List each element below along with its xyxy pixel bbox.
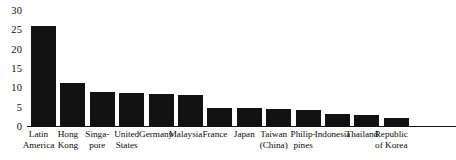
bar	[296, 110, 321, 127]
y-axis-tick-label: 20	[11, 45, 22, 55]
bar	[119, 93, 144, 127]
x-axis-category-labels: Latin AmericaHong KongSinga- poreUnited …	[27, 129, 456, 160]
bar	[178, 95, 203, 127]
bar-slot	[236, 0, 265, 127]
bar	[237, 108, 262, 127]
bar-slot	[295, 0, 324, 127]
bar	[266, 109, 291, 127]
bar-slot	[59, 0, 88, 127]
category-label: Republic of Korea	[371, 129, 411, 151]
plot-area	[27, 0, 456, 127]
bar-slot	[148, 0, 177, 127]
bar	[90, 92, 115, 127]
bar	[60, 83, 85, 127]
y-axis-tick-label: 30	[11, 6, 22, 16]
bar-chart: 051015202530 Latin AmericaHong KongSinga…	[0, 0, 456, 160]
bar-slot	[30, 0, 59, 127]
bar	[149, 94, 174, 127]
y-axis-tick-label: 5	[17, 103, 22, 113]
bar	[31, 26, 56, 127]
y-axis-tick-label: 25	[11, 25, 22, 35]
bar-slot	[89, 0, 118, 127]
bar-slot	[118, 0, 147, 127]
y-axis: 051015202530	[0, 0, 27, 131]
bar-slot	[353, 0, 382, 127]
bar	[207, 108, 232, 127]
y-axis-tick-label: 15	[11, 64, 22, 74]
bar	[354, 115, 379, 127]
bar	[325, 114, 350, 127]
bar-slot	[383, 0, 412, 127]
bar-slot	[324, 0, 353, 127]
bar-slot	[265, 0, 294, 127]
bar-slot	[206, 0, 235, 127]
bar	[384, 118, 409, 127]
bar-slot	[177, 0, 206, 127]
y-axis-tick-label: 10	[11, 83, 22, 93]
